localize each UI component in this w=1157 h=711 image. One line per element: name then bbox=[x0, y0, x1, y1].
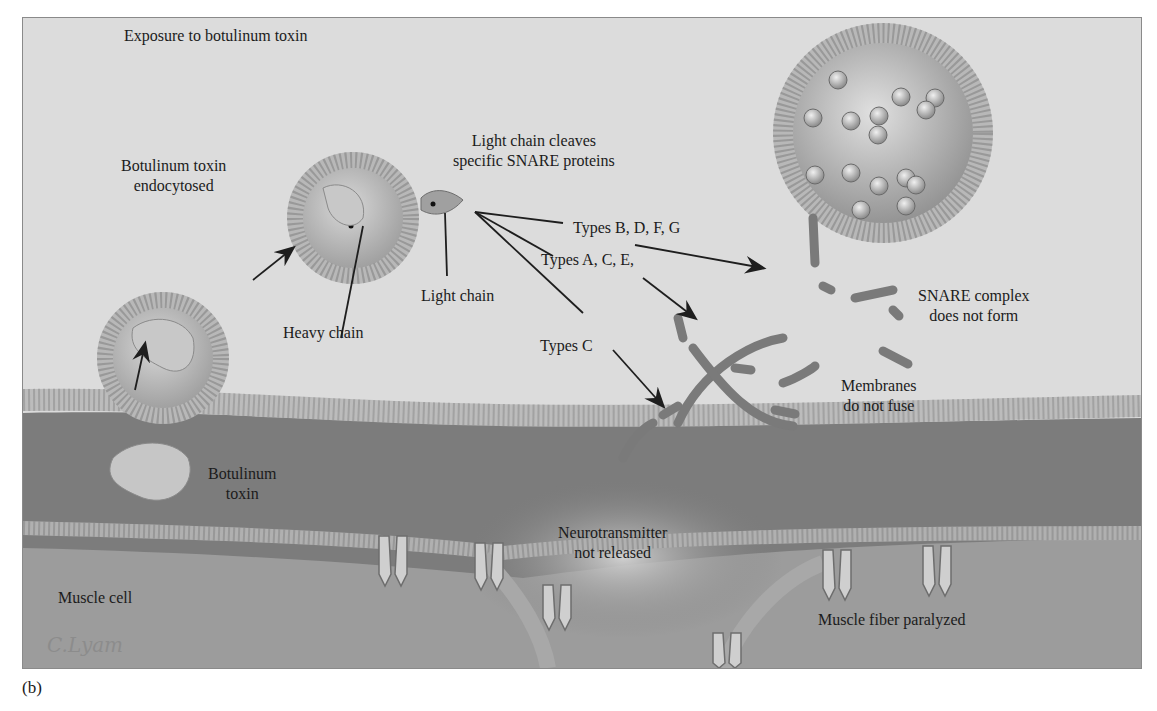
botulinum-diagram: Exposure to botulinum toxin Botulinum to… bbox=[22, 17, 1142, 669]
artist-signature: C.Lyam bbox=[47, 633, 123, 657]
label-light-chain-cleaves: Light chain cleaves specific SNARE prote… bbox=[453, 131, 615, 171]
label-types-ace: Types A, C, E, bbox=[541, 250, 634, 270]
label-light-chain: Light chain bbox=[421, 286, 494, 306]
label-botulinum-toxin: Botulinum toxin bbox=[208, 464, 276, 504]
label-membranes: Membranes do not fuse bbox=[841, 376, 917, 416]
label-exposure: Exposure to botulinum toxin bbox=[124, 26, 308, 46]
label-endocytosed: Botulinum toxin endocytosed bbox=[121, 156, 226, 196]
label-heavy-chain: Heavy chain bbox=[283, 323, 363, 343]
label-types-c: Types C bbox=[540, 336, 593, 356]
label-snare-complex: SNARE complex does not form bbox=[918, 286, 1030, 326]
label-types-bdfg: Types B, D, F, G bbox=[573, 218, 680, 238]
label-muscle-fiber-paralyzed: Muscle fiber paralyzed bbox=[818, 610, 965, 630]
label-neurotransmitter: Neurotransmitter not released bbox=[558, 523, 667, 563]
panel-label: (b) bbox=[22, 678, 42, 698]
label-muscle-cell: Muscle cell bbox=[58, 588, 132, 608]
